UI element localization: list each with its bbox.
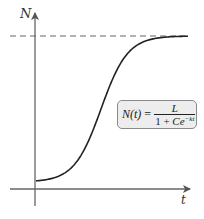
formula-lhs: N(t) xyxy=(122,107,141,122)
x-axis-label: t xyxy=(181,193,186,207)
formula-exponent: −kt xyxy=(185,115,195,123)
logistic-diagram: N t N(t) = L 1 + Ce−kt xyxy=(0,0,204,219)
y-axis-label: N xyxy=(20,6,31,21)
formula-denominator: 1 + Ce−kt xyxy=(154,114,195,127)
formula-fraction: L 1 + Ce−kt xyxy=(154,103,195,127)
formula-box: N(t) = L 1 + Ce−kt xyxy=(117,100,197,129)
formula-denominator-prefix: 1 + xyxy=(155,115,172,127)
formula-equals: = xyxy=(144,107,151,122)
formula-numerator: L xyxy=(170,103,180,114)
formula-constant-c: C xyxy=(172,115,179,127)
